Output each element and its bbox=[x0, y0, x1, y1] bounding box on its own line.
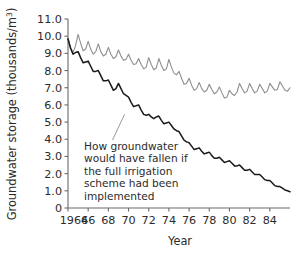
annotation-leader-line bbox=[113, 114, 125, 140]
series-line-actual-groundwater-storage bbox=[68, 34, 290, 98]
annotation-line: scheme had been bbox=[84, 177, 179, 189]
annotation-line: would have fallen if bbox=[84, 152, 188, 164]
y-axis-tick-labels: 01.02.03.04.05.06.07.08.09.010.011.0 bbox=[37, 13, 62, 215]
x-tick-label: 78 bbox=[202, 214, 216, 227]
y-axis-title-main: Groundwater storage (thousands/m bbox=[5, 17, 19, 220]
y-tick-label: 9.0 bbox=[44, 47, 62, 60]
y-tick-label: 10.0 bbox=[37, 30, 62, 43]
x-tick-label: 72 bbox=[142, 214, 156, 227]
x-axis: 196466687072747678808284 bbox=[60, 208, 290, 227]
y-tick-label: 1.0 bbox=[44, 185, 62, 198]
groundwater-storage-chart: 01.02.03.04.05.06.07.08.09.010.011.0 196… bbox=[0, 0, 305, 259]
x-tick-label: 70 bbox=[121, 214, 135, 227]
y-tick-label: 2.0 bbox=[44, 168, 62, 181]
y-axis: 01.02.03.04.05.06.07.08.09.010.011.0 bbox=[37, 13, 68, 215]
y-tick-label: 7.0 bbox=[44, 82, 62, 95]
y-tick-label: 6.0 bbox=[44, 99, 62, 112]
x-tick-label: 74 bbox=[162, 214, 176, 227]
x-tick-label: 80 bbox=[222, 214, 236, 227]
x-tick-label: 66 bbox=[81, 214, 95, 227]
x-tick-label: 68 bbox=[101, 214, 115, 227]
annotation-line: implemented bbox=[84, 190, 154, 202]
y-tick-label: 4.0 bbox=[44, 133, 62, 146]
annotation-line: the full irrigation bbox=[84, 165, 172, 177]
chart-canvas: 01.02.03.04.05.06.07.08.09.010.011.0 196… bbox=[0, 0, 305, 259]
y-tick-label: 5.0 bbox=[44, 116, 62, 129]
y-axis-title: Groundwater storage (thousands/m3) bbox=[5, 8, 20, 221]
scenario-annotation-text: How groundwaterwould have fallen ifthe f… bbox=[84, 140, 188, 202]
x-tick-label: 82 bbox=[243, 214, 257, 227]
x-axis-title: Year bbox=[167, 234, 192, 248]
y-tick-label: 3.0 bbox=[44, 150, 62, 163]
annotation-line: How groundwater bbox=[84, 140, 179, 152]
x-axis-tick-labels: 196466687072747678808284 bbox=[60, 214, 277, 227]
y-tick-label: 8.0 bbox=[44, 65, 62, 78]
x-tick-label: 84 bbox=[263, 214, 277, 227]
x-tick-label: 76 bbox=[182, 214, 196, 227]
y-axis-title-tail: ) bbox=[5, 8, 19, 12]
y-tick-label: 11.0 bbox=[37, 13, 62, 26]
